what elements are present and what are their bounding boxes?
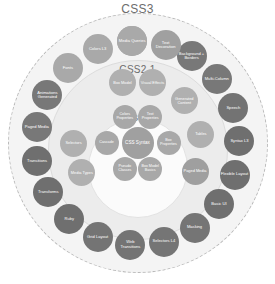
node-label: Box Model Basics [139, 165, 161, 173]
node-label: Flexible Layout [221, 172, 249, 176]
node-label: Fonts [63, 66, 73, 70]
node-label: Text Decoration [152, 41, 180, 50]
node-label: Basic UI [211, 202, 226, 206]
node-label: Masking [187, 225, 202, 229]
node-nodes_css3-4[interactable]: Paged Media [22, 112, 52, 142]
node-nodes_css3-11[interactable]: Masking [180, 213, 210, 243]
node-nodes_css1-2[interactable]: Cascade [95, 131, 119, 155]
node-nodes_css3-7[interactable]: Ruby [54, 204, 84, 234]
node-label: Cascade [99, 141, 114, 145]
node-label: Background + Borders [178, 52, 206, 61]
node-label: Selectors L4 [153, 239, 176, 243]
node-label: Transitions [27, 159, 47, 163]
node-nodes_css3-1[interactable]: Colors L3 [83, 34, 113, 64]
node-label: Visual Effects [141, 81, 164, 85]
node-label: Transforms [38, 190, 59, 194]
node-nodes_css21-4[interactable]: Paged Media [182, 158, 209, 185]
node-label: Colors Properties [114, 113, 136, 121]
node-nodes_css1-1[interactable]: Colors Properties [113, 105, 137, 129]
node-label: Syntax L3 [230, 139, 248, 143]
node-nodes_css21-3[interactable]: Tables [187, 121, 214, 148]
css-concentric-diagram: CSS3 CSS2.1 CSS1 Text DecorationColors L… [0, 0, 275, 284]
node-label: Animations Generated [33, 91, 61, 100]
node-label: Generated Content [172, 97, 197, 105]
node-nodes_css21-6[interactable]: Selectors [60, 130, 87, 157]
node-label: Media Types [71, 171, 93, 175]
node-nodes_css3-18[interactable]: Text Decoration [151, 30, 181, 60]
node-label: Box Model [113, 81, 131, 85]
node-core-css-syntax[interactable]: CSS Syntax [122, 127, 154, 159]
node-nodes_css1-4[interactable]: Pseudo Classes [113, 157, 137, 181]
node-label: Text Properties [139, 113, 161, 121]
node-label: Pseudo Classes [114, 165, 136, 173]
node-nodes_css3-5[interactable]: Transitions [22, 146, 52, 176]
node-label: Colors L3 [89, 47, 107, 51]
node-label: Media Queries [119, 39, 146, 43]
node-nodes_css21-2[interactable]: Generated Content [171, 87, 198, 114]
node-nodes_css1-3[interactable]: Box Properties [157, 131, 181, 155]
node-label: Paged Media [184, 169, 207, 173]
node-label: Tables [195, 132, 206, 136]
node-label: CSS Syntax [125, 141, 150, 146]
node-label: Ruby [64, 217, 74, 221]
node-label: Box Properties [158, 139, 180, 147]
node-label: Speech [226, 106, 240, 110]
node-nodes_css3-10[interactable]: Selectors L4 [149, 227, 179, 257]
node-label: Selectors [65, 141, 81, 145]
ring-label-css3: CSS3 [121, 2, 154, 16]
node-nodes_css1-0[interactable]: Text Properties [138, 105, 162, 129]
node-label: Grid Layout [87, 235, 108, 239]
node-nodes_css3-9[interactable]: Web Transitions [115, 230, 145, 260]
node-nodes_css3-16[interactable]: Multi-Column [202, 64, 232, 94]
node-nodes_css3-13[interactable]: Flexible Layout [220, 160, 250, 190]
node-nodes_css3-17[interactable]: Background + Borders [177, 41, 207, 71]
node-label: Paged Media [25, 125, 49, 129]
node-nodes_css3-8[interactable]: Grid Layout [83, 222, 113, 252]
node-label: Multi-Column [205, 77, 229, 81]
node-label: Web Transitions [116, 240, 144, 249]
